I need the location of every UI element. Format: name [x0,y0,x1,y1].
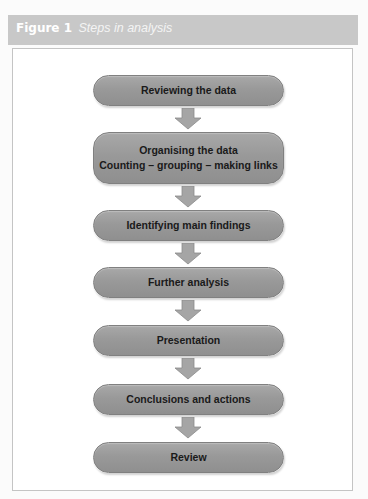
step-label: Review [170,450,206,465]
step-organising-data: Organising the data Counting – grouping … [93,132,284,184]
figure-number: Figure 1 [16,21,72,35]
step-label: Identifying main findings [126,218,250,233]
step-reviewing-data: Reviewing the data [93,75,284,106]
flowchart-panel: Reviewing the data Organising the data C… [12,48,353,491]
step-label: Presentation [157,333,221,348]
step-label: Reviewing the data [141,83,236,98]
figure-header: Figure 1 Steps in analysis [8,15,358,45]
step-identifying-findings: Identifying main findings [93,210,284,241]
step-label: Conclusions and actions [126,392,250,407]
down-arrow-icon [174,186,202,208]
down-arrow-icon [174,108,202,130]
down-arrow-icon [174,358,202,380]
down-arrow-icon [174,243,202,265]
step-conclusions-actions: Conclusions and actions [93,384,284,415]
step-sublabel: Counting – grouping – making links [99,158,278,173]
down-arrow-icon [174,417,202,439]
figure-caption: Steps in analysis [79,21,173,35]
step-presentation: Presentation [93,325,284,356]
down-arrow-icon [174,300,202,322]
step-further-analysis: Further analysis [93,267,284,298]
figure: Figure 1 Steps in analysis Reviewing the… [8,15,358,491]
step-review: Review [93,442,284,473]
step-label: Organising the data [139,143,238,158]
step-label: Further analysis [148,275,229,290]
